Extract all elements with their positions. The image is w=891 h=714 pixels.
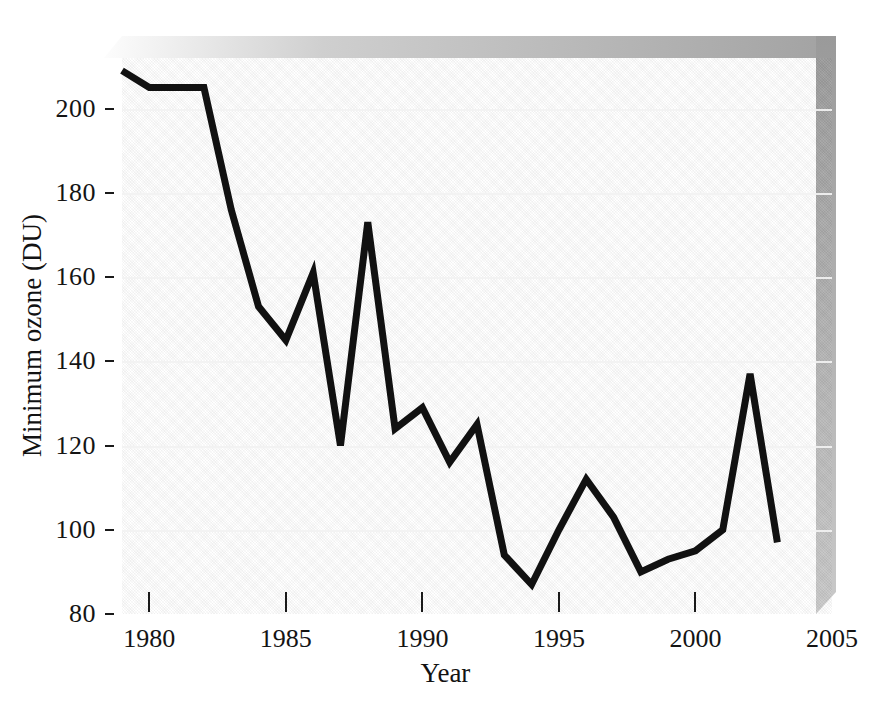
y-tick-label-80: 80 — [69, 599, 96, 629]
chart-figure: 20018016014012010080 1980198519901995200… — [0, 0, 891, 714]
y-axis-ticks: 20018016014012010080 — [0, 36, 96, 614]
x-tick-label-1980: 1980 — [123, 624, 175, 654]
y-tick-label-160: 160 — [56, 262, 97, 292]
y-tick-mark-200 — [105, 108, 114, 110]
panel-top-bevel — [104, 36, 834, 58]
y-tick-mark-100 — [105, 529, 114, 531]
y-tick-mark-160 — [105, 276, 114, 278]
x-tick-label-1995: 1995 — [533, 624, 585, 654]
plot-area — [122, 58, 832, 614]
y-tick-mark-120 — [105, 445, 114, 447]
x-tick-label-1990: 1990 — [396, 624, 448, 654]
y-tick-label-200: 200 — [56, 94, 97, 124]
x-tick-label-1985: 1985 — [260, 624, 312, 654]
x-tick-label-2005: 2005 — [806, 624, 858, 654]
x-tick-mark-1995 — [558, 592, 560, 612]
data-series-line — [122, 58, 832, 614]
x-tick-mark-1985 — [285, 592, 287, 612]
x-tick-label-2000: 2000 — [669, 624, 721, 654]
x-axis-title: Year — [0, 658, 891, 689]
x-tick-mark-2000 — [694, 592, 696, 612]
y-tick-label-120: 120 — [56, 431, 97, 461]
y-tick-mark-180 — [105, 192, 114, 194]
plot-panel-3d — [104, 36, 834, 614]
y-tick-label-100: 100 — [56, 515, 97, 545]
x-axis-ticks: 198019851990199520002005 — [104, 614, 844, 658]
y-tick-label-140: 140 — [56, 346, 97, 376]
y-tick-label-180: 180 — [56, 178, 97, 208]
y-axis-title: Minimum ozone (DU) — [17, 101, 48, 571]
x-tick-mark-1980 — [148, 592, 150, 612]
y-tick-mark-140 — [105, 360, 114, 362]
x-tick-mark-1990 — [421, 592, 423, 612]
